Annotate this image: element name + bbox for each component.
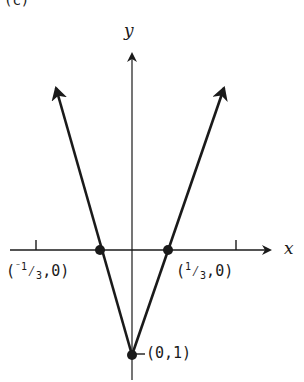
x-axis: [10, 240, 270, 250]
vertex-label: (0,1): [146, 346, 191, 361]
right-branch: [132, 88, 224, 355]
graph-curve: [56, 88, 224, 355]
point-vertex: [127, 350, 137, 360]
point-neg-intercept: [95, 245, 105, 255]
y-axis-label: y: [124, 22, 134, 39]
graph-canvas: [0, 0, 304, 382]
pos-intercept-label: (1⁄3,0): [176, 262, 233, 281]
point-pos-intercept: [163, 245, 173, 255]
left-branch: [56, 88, 132, 355]
neg-intercept-label: (⁻1⁄3,0): [6, 262, 69, 281]
x-axis-label: x: [284, 240, 294, 257]
